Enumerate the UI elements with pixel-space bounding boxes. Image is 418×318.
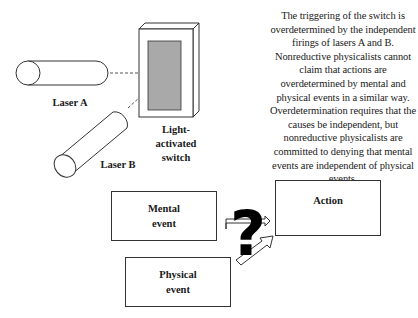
- mental-event-label: Mental event: [148, 201, 180, 231]
- question-mark: ?: [230, 197, 266, 270]
- action-label: Action: [313, 193, 343, 208]
- laser-b-label: Laser B: [88, 158, 148, 172]
- laser-a-label: Laser A: [40, 96, 100, 110]
- switch-label: Light- activated switch: [148, 123, 204, 165]
- physical-event-label: Physical event: [159, 267, 196, 297]
- physical-event-box: Physical event: [125, 257, 231, 307]
- mental-event-box: Mental event: [111, 191, 217, 241]
- action-box: Action: [275, 180, 381, 236]
- light-activated-switch-icon: [139, 23, 199, 117]
- laser-a-icon: [16, 61, 108, 85]
- caption-text: The triggering of the switch is overdete…: [268, 9, 418, 186]
